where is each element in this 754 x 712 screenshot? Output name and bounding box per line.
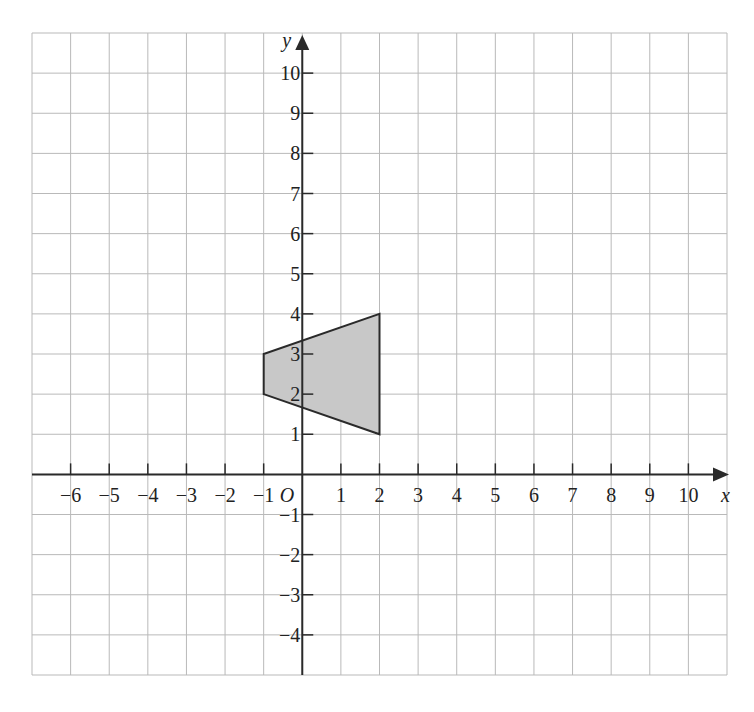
y-tick-label: 10 bbox=[280, 62, 300, 84]
y-tick-label: −2 bbox=[279, 544, 300, 566]
x-tick-label: −5 bbox=[99, 484, 120, 506]
y-tick-label: −4 bbox=[279, 624, 300, 646]
x-tick-label: 3 bbox=[413, 484, 423, 506]
y-tick-label: 5 bbox=[290, 263, 300, 285]
x-tick-label: 9 bbox=[645, 484, 655, 506]
axis-labels: −6−5−4−3−2−11234567891010987654321−1−2−3… bbox=[60, 29, 730, 646]
y-tick-label: 9 bbox=[290, 102, 300, 124]
origin-label: O bbox=[280, 484, 294, 506]
x-tick-label: 5 bbox=[490, 484, 500, 506]
y-tick-label: 6 bbox=[290, 223, 300, 245]
y-tick-label: −3 bbox=[279, 584, 300, 606]
x-tick-label: 10 bbox=[678, 484, 698, 506]
y-tick-label: 3 bbox=[290, 343, 300, 365]
x-tick-label: −6 bbox=[60, 484, 81, 506]
x-tick-label: −2 bbox=[214, 484, 235, 506]
x-tick-label: 1 bbox=[336, 484, 346, 506]
y-axis-arrow-icon bbox=[295, 35, 309, 50]
x-tick-label: 6 bbox=[529, 484, 539, 506]
y-tick-label: 7 bbox=[290, 183, 300, 205]
y-tick-label: −1 bbox=[279, 504, 300, 526]
x-tick-label: −1 bbox=[253, 484, 274, 506]
y-tick-label: 8 bbox=[290, 142, 300, 164]
x-tick-label: −4 bbox=[137, 484, 158, 506]
x-axis-label: x bbox=[720, 484, 730, 506]
y-axis-label: y bbox=[280, 29, 291, 52]
x-tick-label: 4 bbox=[452, 484, 462, 506]
trapezium-shape bbox=[264, 314, 380, 434]
x-tick-label: −3 bbox=[176, 484, 197, 506]
x-tick-label: 2 bbox=[375, 484, 385, 506]
y-tick-label: 2 bbox=[290, 383, 300, 405]
y-tick-label: 4 bbox=[290, 303, 300, 325]
x-tick-label: 8 bbox=[606, 484, 616, 506]
y-tick-label: 1 bbox=[290, 423, 300, 445]
coordinate-plane: −6−5−4−3−2−11234567891010987654321−1−2−3… bbox=[0, 0, 754, 712]
coordinate-grid-figure: −6−5−4−3−2−11234567891010987654321−1−2−3… bbox=[0, 0, 754, 712]
x-tick-label: 7 bbox=[568, 484, 578, 506]
shape-layer bbox=[264, 314, 380, 434]
